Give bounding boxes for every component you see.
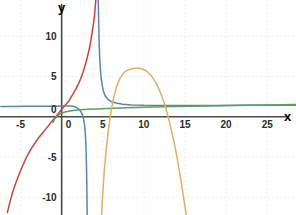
x-tick-label: 10	[138, 119, 150, 130]
x-tick-label: 5	[100, 119, 106, 130]
y-tick-label: 10	[46, 31, 58, 42]
y-tick-label: 5	[51, 71, 57, 82]
x-origin-label: 0	[66, 119, 72, 130]
y-tick-label: -5	[48, 152, 57, 163]
y-tick-label: -10	[42, 192, 57, 203]
function-plot: y x -551015202501050-5-10	[0, 0, 296, 215]
x-axis-title: x	[284, 109, 292, 124]
graph-canvas: y x -551015202501050-5-10	[0, 0, 296, 215]
x-tick-label: 25	[262, 119, 274, 130]
x-tick-label: 20	[221, 119, 233, 130]
x-tick-label: -5	[16, 119, 25, 130]
y-origin-label: 0	[51, 104, 57, 115]
x-tick-label: 15	[179, 119, 191, 130]
y-axis-title: y	[58, 0, 66, 15]
